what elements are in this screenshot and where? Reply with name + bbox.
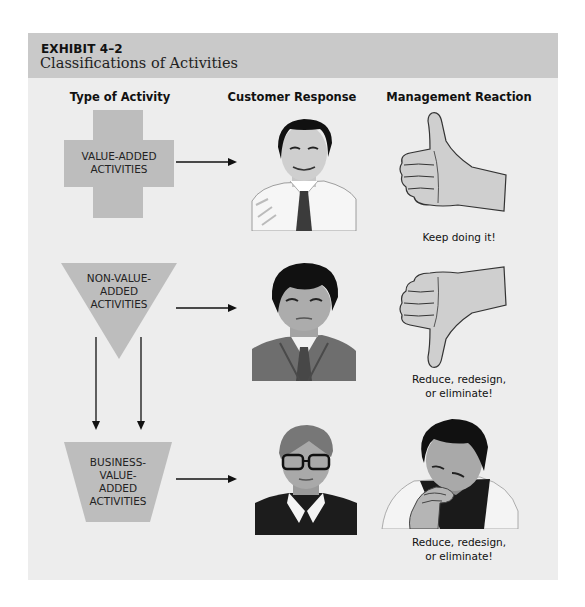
- exhibit-number: EXHIBIT 4–2: [41, 42, 123, 56]
- non-value-added-label: NON-VALUE- ADDED ACTIVITIES: [61, 272, 177, 311]
- thinking-man-illustration: [380, 411, 520, 529]
- unhappy-customer-illustration: [250, 259, 358, 381]
- exhibit-title: Classifications of Activities: [40, 55, 238, 71]
- boy-with-glasses-illustration: [253, 423, 359, 535]
- arrow-right-icon: [176, 157, 238, 167]
- arrow-right-icon: [176, 303, 238, 313]
- business-value-added-label: BUSINESS- VALUE- ADDED ACTIVITIES: [64, 456, 172, 508]
- column-header-type-of-activity: Type of Activity: [70, 90, 171, 104]
- reduce-redesign-eliminate-caption: Reduce, redesign, or eliminate!: [412, 372, 506, 400]
- thumbs-down-icon: [394, 259, 510, 369]
- exhibit-panel: EXHIBIT 4–2 Classifications of Activitie…: [28, 33, 558, 580]
- reduce-redesign-eliminate-caption: Reduce, redesign, or eliminate!: [412, 535, 506, 563]
- exhibit-header: EXHIBIT 4–2 Classifications of Activitie…: [28, 33, 558, 78]
- satisfied-customer-illustration: [250, 113, 358, 231]
- down-arrows: [88, 337, 148, 431]
- column-header-customer-response: Customer Response: [228, 90, 357, 104]
- arrow-right-icon: [176, 474, 238, 484]
- value-added-label: VALUE-ADDED ACTIVITIES: [64, 150, 174, 176]
- thumbs-up-icon: [394, 111, 510, 221]
- column-header-management-reaction: Management Reaction: [386, 90, 531, 104]
- keep-doing-it-caption: Keep doing it!: [422, 230, 495, 244]
